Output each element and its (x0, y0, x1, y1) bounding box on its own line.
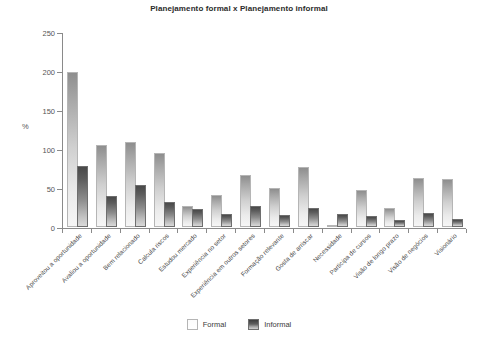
y-axis-line (62, 33, 63, 229)
y-axis-title: % (22, 122, 29, 131)
bar-group[interactable] (384, 32, 403, 227)
bar-informal[interactable] (423, 213, 434, 227)
bar-group[interactable] (96, 32, 115, 227)
bar-informal[interactable] (164, 202, 175, 227)
x-axis-labels: Aproveitou a oportunidadeAvaliou a oport… (62, 232, 466, 322)
bar-chart: Planejamento formal x Planejamento infor… (0, 0, 478, 347)
bar-informal[interactable] (106, 196, 117, 227)
bar-informal[interactable] (452, 219, 463, 227)
y-tick-mark (57, 111, 62, 112)
x-tick-mark (466, 229, 467, 233)
y-tick-label: 0 (51, 224, 55, 233)
x-axis-label: Visionário (433, 232, 458, 257)
x-axis-label: Aproveitou a oportunidade (24, 232, 83, 291)
bar-group[interactable] (154, 32, 173, 227)
bar-group[interactable] (182, 32, 201, 227)
bar-group[interactable] (269, 32, 288, 227)
y-tick-label: 100 (42, 146, 55, 155)
plot-area: 050100150200250 (62, 33, 466, 228)
y-tick-mark (57, 72, 62, 73)
legend-item-informal[interactable]: Informal (248, 319, 291, 330)
bar-informal[interactable] (337, 214, 348, 227)
y-tick-label: 250 (42, 29, 55, 38)
bar-group[interactable] (327, 32, 346, 227)
y-tick-label: 200 (42, 68, 55, 77)
chart-title: Planejamento formal x Planejamento infor… (0, 4, 478, 13)
legend-label: Formal (203, 320, 226, 329)
bar-informal[interactable] (221, 214, 232, 227)
legend-label: Informal (264, 320, 291, 329)
bar-informal[interactable] (250, 206, 261, 227)
bar-informal[interactable] (394, 220, 405, 227)
bar-informal[interactable] (366, 216, 377, 227)
bar-group[interactable] (413, 32, 432, 227)
y-tick-label: 150 (42, 107, 55, 116)
bar-group[interactable] (298, 32, 317, 227)
y-tick-mark (57, 150, 62, 151)
legend-item-formal[interactable]: Formal (187, 319, 226, 330)
bar-group[interactable] (442, 32, 461, 227)
bar-group[interactable] (240, 32, 259, 227)
bar-informal[interactable] (135, 185, 146, 227)
y-tick-mark (57, 189, 62, 190)
legend-swatch-formal (187, 319, 198, 330)
bar-group[interactable] (356, 32, 375, 227)
bar-group[interactable] (211, 32, 230, 227)
bar-informal[interactable] (308, 208, 319, 227)
bar-informal[interactable] (279, 215, 290, 227)
x-axis-label: Avaliou a oportunidade (60, 232, 112, 284)
bar-group[interactable] (67, 32, 86, 227)
y-tick-mark (57, 33, 62, 34)
bar-informal[interactable] (192, 209, 203, 227)
bar-informal[interactable] (77, 166, 88, 227)
bar-group[interactable] (125, 32, 144, 227)
legend-swatch-informal (248, 319, 259, 330)
y-tick-label: 50 (47, 185, 55, 194)
chart-legend: FormalInformal (0, 319, 478, 330)
x-axis-label: Necessidade (311, 232, 342, 263)
